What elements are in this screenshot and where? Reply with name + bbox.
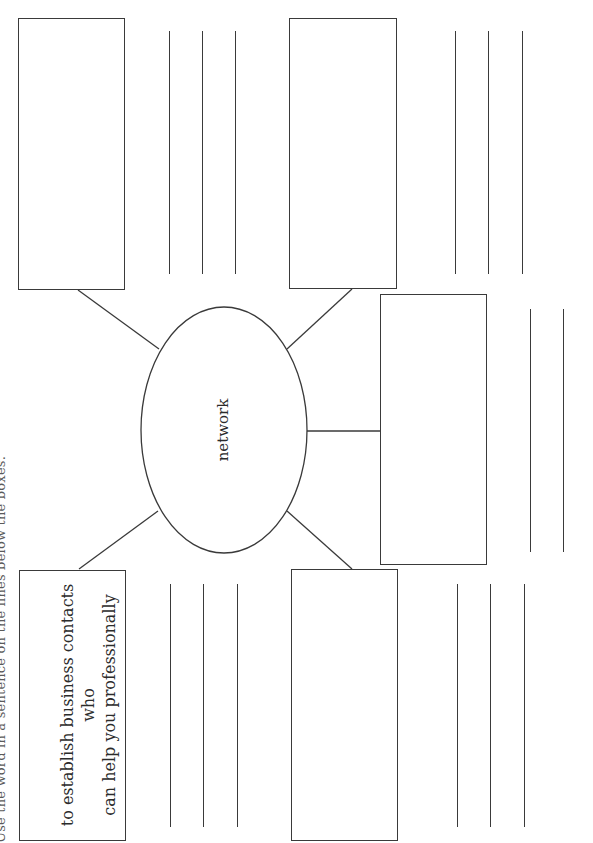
writing-line[interactable] [524,584,525,827]
writing-line[interactable] [530,309,531,552]
box-3[interactable] [289,18,397,289]
box-2[interactable] [18,18,125,290]
writing-line[interactable] [522,31,523,274]
definition-line-2: can help you professionally [99,582,120,828]
writing-line[interactable] [237,584,238,827]
writing-line[interactable] [563,309,564,552]
writing-line[interactable] [488,31,489,274]
box-4[interactable] [291,569,398,841]
connector-top-left [78,290,159,349]
definition-line-1: to establish business contacts who [57,582,99,828]
definition-text: to establish business contacts who can h… [57,582,120,828]
connector-bottom-right [287,511,352,569]
writing-line[interactable] [235,31,236,274]
writing-line[interactable] [203,584,204,827]
center-word: network [213,380,234,480]
connector-top-right [287,289,352,349]
connector-bottom-left [79,511,158,569]
writing-line[interactable] [455,31,456,274]
box-5[interactable] [380,294,487,565]
writing-line[interactable] [490,584,491,827]
instruction-text: Use the word in a sentence on the lines … [0,0,8,843]
writing-line[interactable] [202,31,203,274]
writing-line[interactable] [170,584,171,827]
writing-line[interactable] [457,584,458,827]
writing-line[interactable] [169,31,170,274]
